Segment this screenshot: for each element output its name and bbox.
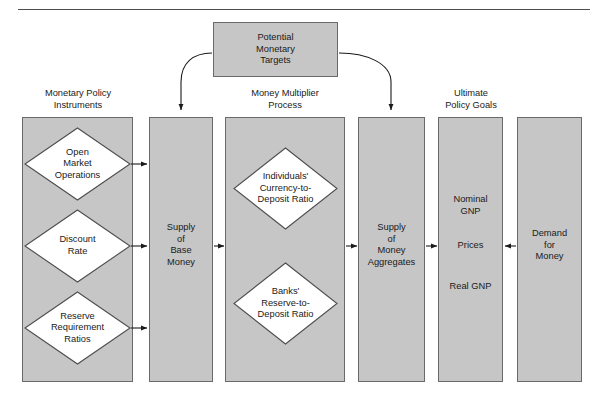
goal-real-gnp: Real GNP (438, 281, 503, 293)
figure-canvas: Potential Monetary Targets Monetary Poli… (0, 0, 601, 400)
header-money-multiplier-process: Money Multiplier Process (220, 88, 350, 111)
arrow-potential-targets-to-base-money (181, 53, 212, 110)
goal-prices: Prices (438, 240, 503, 252)
diamond-open-market-operations: Open Market Operations (24, 127, 131, 201)
top-horizontal-rule (18, 9, 590, 10)
header-ultimate-policy-goals: Ultimate Policy Goals (435, 88, 507, 111)
goal-nominal-gnp: Nominal GNP (438, 194, 503, 217)
potential-monetary-targets-label: Potential Monetary Targets (256, 32, 295, 67)
diamond-discount-rate: Discount Rate (24, 209, 131, 283)
supply-of-base-money-label: Supply of Base Money (149, 222, 213, 268)
demand-for-money-label: Demand for Money (517, 228, 582, 263)
potential-monetary-targets-box: Potential Monetary Targets (213, 22, 338, 77)
diamond-banks-reserve-to-deposit-ratio: Banks' Reserve-to- Deposit Ratio (233, 262, 338, 345)
supply-of-money-aggregates-label: Supply of Money Aggregates (358, 222, 425, 268)
diamond-individuals-currency-to-deposit-ratio: Individuals' Currency-to- Deposit Ratio (233, 147, 338, 230)
diamond-reserve-requirement-ratios: Reserve Requirement Ratios (24, 291, 131, 365)
header-monetary-policy-instruments: Monetary Policy Instruments (13, 88, 143, 111)
